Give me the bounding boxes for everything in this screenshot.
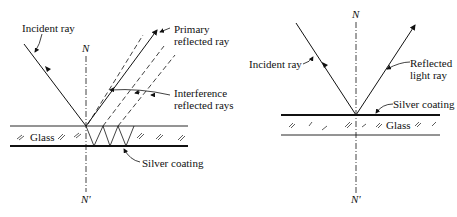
- glass-hatch-marks: [289, 122, 436, 130]
- arrow-icon: [45, 66, 51, 72]
- interference-label-2: reflected rays: [174, 99, 234, 111]
- normal-bottom-label: N': [81, 193, 91, 205]
- normal-bottom-label: N': [351, 193, 361, 205]
- glass-label: Glass: [30, 131, 54, 143]
- silver-coating-label: Silver coating: [393, 98, 454, 110]
- interference-label-1: Interference: [174, 87, 227, 99]
- silver-coating-label: Silver coating: [142, 157, 203, 169]
- primary-label-2: reflected ray: [174, 35, 229, 47]
- reflected-label-2: light ray: [410, 69, 447, 81]
- incident-ray-label: Incident ray: [22, 22, 75, 34]
- interference-rays: [88, 35, 175, 126]
- normal-top-label: N: [82, 42, 89, 54]
- primary-label-1: Primary: [174, 23, 209, 35]
- incident-ray-label: Incident ray: [249, 58, 302, 70]
- normal-top-label: N: [352, 8, 359, 20]
- glass-label: Glass: [386, 119, 410, 131]
- reflected-label-1: Reflected: [410, 57, 452, 69]
